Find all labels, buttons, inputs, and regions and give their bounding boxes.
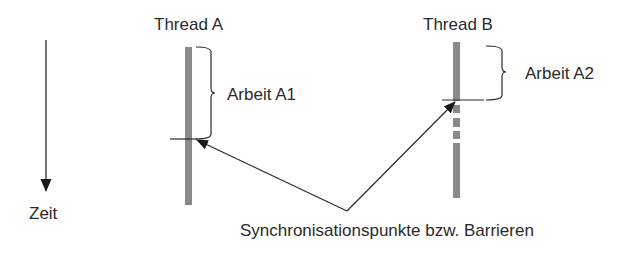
thread-a-work-brace	[196, 47, 215, 139]
time-axis-label: Zeit	[29, 205, 57, 222]
thread-a-label: Thread A	[154, 16, 223, 33]
thread-a-work-label: Arbeit A1	[227, 86, 296, 103]
thread-b-work-label: Arbeit A2	[525, 65, 594, 82]
thread-b-work-brace	[486, 46, 506, 100]
time-axis-arrow-icon	[41, 40, 52, 192]
caption: Synchronisationspunkte bzw. Barrieren	[240, 222, 534, 239]
thread-b-label: Thread B	[423, 16, 493, 33]
diagram-canvas	[0, 0, 641, 253]
sync-pointer-arrows	[197, 102, 455, 211]
thread-a-bar	[185, 47, 192, 205]
thread-b-bar	[453, 42, 460, 198]
